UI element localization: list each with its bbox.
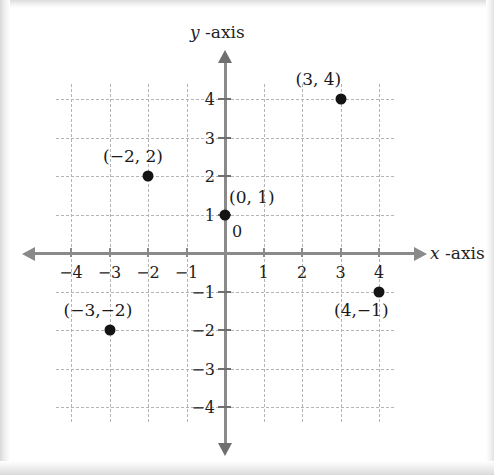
x-axis-arrow-right	[414, 247, 427, 261]
y-axis-tick-label: −1	[183, 282, 215, 301]
y-axis-tick	[218, 368, 231, 370]
y-axis-tick-label: 4	[183, 90, 215, 109]
x-axis-title-suffix: -axis	[445, 243, 485, 263]
data-point-label: (0, 1)	[229, 187, 275, 207]
x-axis-title: x -axis	[430, 243, 485, 263]
x-axis-title-variable: x	[430, 243, 440, 263]
y-axis-tick	[218, 175, 231, 177]
x-axis-tick	[109, 248, 111, 257]
data-point-label: (4,−1)	[334, 300, 389, 320]
x-axis-arrow-left	[22, 247, 35, 261]
data-point	[143, 171, 154, 182]
y-axis-tick-label: −4	[183, 398, 215, 417]
y-axis-title-suffix: -axis	[205, 22, 245, 42]
x-axis-tick-label: −1	[175, 263, 199, 282]
data-point	[104, 325, 115, 336]
x-axis-tick-label: 1	[258, 263, 268, 282]
x-axis-tick	[378, 248, 380, 257]
y-axis-arrow-down	[218, 443, 232, 456]
y-axis-tick-label: 1	[183, 205, 215, 224]
y-axis-title: y -axis	[190, 22, 245, 42]
y-axis-tick	[218, 291, 231, 293]
x-axis-tick	[263, 248, 265, 257]
y-axis-tick-label: 2	[183, 167, 215, 186]
x-axis-tick-label: 4	[374, 263, 384, 282]
x-axis-tick-label: −3	[98, 263, 122, 282]
data-point-label: (−3,−2)	[64, 300, 133, 320]
y-axis-tick	[218, 137, 231, 139]
x-axis-tick	[147, 248, 149, 257]
data-point-label: (3, 4)	[296, 69, 342, 89]
x-axis-tick	[70, 248, 72, 257]
coordinate-plane-figure: −4−3−2−112344321−1−2−3−4 0 y -axis x -ax…	[0, 0, 494, 475]
x-axis-tick-label: −4	[59, 263, 83, 282]
x-axis-tick	[301, 248, 303, 257]
x-axis-tick	[340, 248, 342, 257]
x-axis-tick	[186, 248, 188, 257]
origin-label: 0	[232, 222, 242, 241]
data-point-label: (−2, 2)	[103, 146, 163, 166]
y-axis-tick-label: −3	[183, 359, 215, 378]
y-axis-tick-label: −2	[183, 321, 215, 340]
x-axis-tick-label: 3	[335, 263, 345, 282]
data-point	[374, 286, 385, 297]
y-axis-tick	[218, 98, 231, 100]
y-axis-title-variable: y	[190, 22, 200, 42]
y-axis-tick	[218, 406, 231, 408]
plot-area: −4−3−2−112344321−1−2−3−4 0 y -axis x -ax…	[0, 0, 494, 475]
y-axis-tick	[218, 329, 231, 331]
data-point	[335, 94, 346, 105]
y-axis-tick-label: 3	[183, 128, 215, 147]
y-axis-line	[224, 62, 227, 444]
y-axis-arrow-up	[218, 50, 232, 63]
data-point	[220, 209, 231, 220]
x-axis-tick-label: −2	[136, 263, 160, 282]
x-axis-tick-label: 2	[297, 263, 307, 282]
